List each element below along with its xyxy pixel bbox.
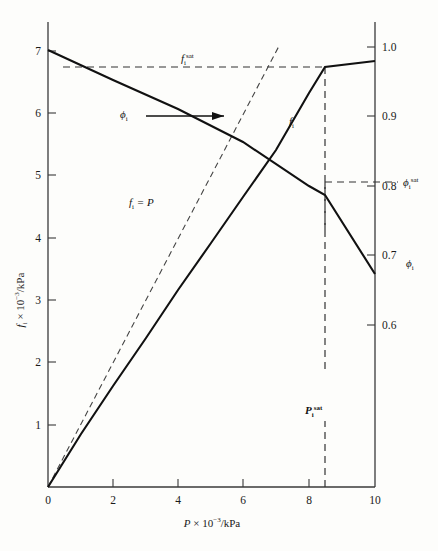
- right-tick-label-0-7: 0.7: [382, 249, 397, 261]
- x-ticks: [113, 479, 309, 487]
- left-y-tick-labels: 7 6 5 4 3 2 1: [35, 45, 41, 431]
- phi-sat-annotation: ϕisat: [403, 176, 418, 191]
- p-sat-annotation: Pisat: [305, 404, 323, 419]
- plot-axes: [48, 22, 375, 487]
- arrow-head-icon: [212, 112, 224, 120]
- x-tick-label-0: 0: [45, 494, 51, 506]
- fugacity-fugacity-coefficient-chart: 7 6 5 4 3 2 1 1.0 0.9 0.8 0.7 0.6: [0, 0, 438, 551]
- figure-root: 7 6 5 4 3 2 1 1.0 0.9 0.8 0.7 0.6: [0, 0, 438, 551]
- x-axis-title: P × 10−3/kPa: [183, 516, 241, 529]
- x-tick-label-8: 8: [306, 494, 312, 506]
- x-tick-label-4: 4: [175, 494, 181, 506]
- right-tick-label-0-6: 0.6: [382, 319, 397, 331]
- right-tick-label-0-9: 0.9: [382, 110, 397, 122]
- x-tick-label-10: 10: [369, 494, 381, 506]
- f-equals-p-label: fi = P: [129, 196, 154, 211]
- right-y-ticks: [367, 47, 375, 325]
- right-tick-label-1-0: 1.0: [382, 41, 397, 53]
- left-tick-label-2: 2: [35, 356, 41, 368]
- x-tick-label-6: 6: [240, 494, 246, 506]
- phi-i-axis-label: ϕi: [406, 257, 414, 272]
- left-tick-label-1: 1: [35, 419, 41, 431]
- left-tick-label-3: 3: [35, 294, 41, 306]
- left-tick-label-7: 7: [35, 45, 41, 57]
- phi-i-curve: [48, 50, 375, 274]
- right-y-tick-labels: 1.0 0.9 0.8 0.7 0.6: [382, 41, 397, 331]
- f-equals-p-dashed-line: [48, 46, 279, 487]
- left-y-ticks: [48, 51, 56, 425]
- x-tick-labels: 0 2 4 6 8 10: [45, 494, 381, 506]
- left-tick-label-6: 6: [35, 107, 41, 119]
- x-tick-label-2: 2: [110, 494, 116, 506]
- left-y-axis-title: fi × 10−3/kPa: [13, 273, 29, 328]
- left-tick-label-4: 4: [35, 232, 41, 244]
- f-sat-annotation: fisat: [181, 52, 194, 67]
- left-tick-label-5: 5: [35, 169, 41, 181]
- phi-i-curve-label: ϕi: [120, 108, 128, 123]
